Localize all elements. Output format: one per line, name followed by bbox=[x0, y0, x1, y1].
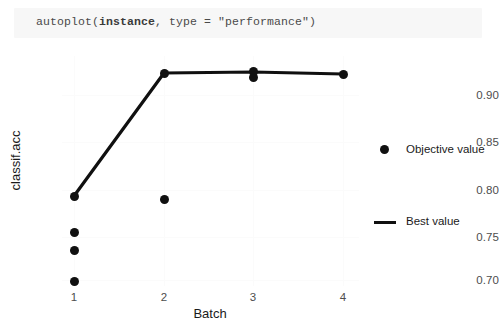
code-block-text: autoplot(instance, type = "performance") bbox=[36, 15, 316, 28]
data-point bbox=[339, 70, 348, 79]
code-argument-instance: instance bbox=[99, 15, 155, 28]
legend-label-best-value: Best value bbox=[406, 215, 460, 227]
chart-legend: Objective value Best value bbox=[372, 140, 497, 232]
legend-line-icon bbox=[372, 212, 398, 232]
legend-point-icon bbox=[372, 140, 398, 160]
data-point bbox=[70, 192, 79, 201]
chart-plot-area: 0.90 0.85 0.80 0.75 0.70 1 2 3 4 classif… bbox=[0, 48, 499, 327]
legend-item-objective-value: Objective value bbox=[372, 140, 497, 160]
data-point bbox=[160, 195, 169, 204]
data-point bbox=[70, 228, 79, 237]
legend-item-best-value: Best value bbox=[372, 212, 497, 232]
data-point bbox=[249, 73, 258, 82]
code-prefix: autoplot( bbox=[36, 15, 99, 28]
code-block: autoplot(instance, type = "performance") bbox=[14, 8, 482, 38]
data-point bbox=[70, 246, 79, 255]
data-point bbox=[70, 277, 79, 286]
code-suffix: , type = "performance") bbox=[155, 15, 316, 28]
data-point bbox=[160, 69, 169, 78]
legend-label-objective-value: Objective value bbox=[406, 143, 485, 155]
